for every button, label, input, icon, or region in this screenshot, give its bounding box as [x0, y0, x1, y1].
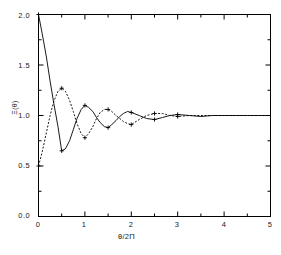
data-marker [83, 136, 87, 140]
data-marker [36, 12, 40, 16]
data-markers [36, 12, 179, 168]
figure: Ξ(θ) θ/2Π 2.0 1.5 1.0 0.5 0.0 0 1 2 3 4 … [0, 0, 281, 255]
data-marker [60, 149, 64, 153]
data-curves [39, 15, 271, 167]
data-marker [106, 107, 110, 111]
data-marker [36, 164, 40, 168]
data-marker [129, 110, 133, 114]
series-upper-branch [39, 15, 271, 151]
series-lower-branch [39, 88, 271, 166]
plot-area [0, 0, 281, 255]
data-marker [152, 111, 156, 115]
data-marker [152, 117, 156, 121]
